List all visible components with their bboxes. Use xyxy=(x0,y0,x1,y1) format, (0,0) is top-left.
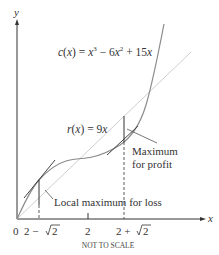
svg-text:2: 2 xyxy=(143,225,149,237)
loss-pointer xyxy=(45,190,53,199)
revenue-line xyxy=(17,52,191,219)
profit-annotation-line1: Maximum xyxy=(132,145,178,157)
cost-revenue-diagram: y x c(x) = x3 − 6x2 + 15x r(x) = 9x Maxi… xyxy=(0,0,219,255)
y-axis-label: y xyxy=(13,6,19,18)
profit-annotation-line2: for profit xyxy=(132,158,172,170)
profit-pointer xyxy=(127,129,157,143)
revenue-equation: r(x) = 9x xyxy=(67,123,108,136)
x-axis-label: x xyxy=(207,212,213,224)
cost-equation: c(x) = x3 − 6x2 + 15x xyxy=(58,45,153,59)
not-to-scale-note: NOT TO SCALE xyxy=(82,241,135,250)
tick-label-2-plus-sqrt2: 2 + 2 xyxy=(116,225,151,237)
y-axis-arrow-icon xyxy=(15,19,19,25)
loss-annotation: Local maximum for loss xyxy=(54,196,162,208)
origin-label: 0 xyxy=(13,225,19,237)
tick-label-2: 2 xyxy=(85,225,91,237)
x-axis-arrow-icon xyxy=(200,217,206,221)
svg-text:2 −: 2 − xyxy=(24,225,41,237)
svg-text:2 +: 2 + xyxy=(116,225,133,237)
svg-text:2: 2 xyxy=(52,225,58,237)
tick-label-2-minus-sqrt2: 2 − 2 xyxy=(24,225,60,237)
